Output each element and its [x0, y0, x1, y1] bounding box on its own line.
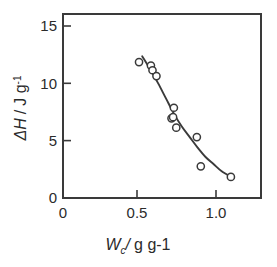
- data-point: [193, 133, 200, 140]
- x-tick-label-1-0: 1.0: [206, 204, 227, 221]
- y-tick-label-5: 5: [49, 132, 57, 149]
- data-point: [227, 173, 234, 180]
- x-axis-title: Wc/g g-1: [105, 236, 170, 256]
- data-point: [169, 114, 176, 121]
- x-axis-units: g g-1: [134, 236, 171, 253]
- x-axis-ticks: [63, 190, 216, 198]
- y-axis-separator: /: [12, 109, 29, 114]
- data-points-group: [135, 58, 234, 180]
- y-axis-symbol: ΔH: [12, 118, 29, 142]
- x-tick-label-0: 0: [59, 204, 67, 221]
- svg-text:ΔH/J g-1: ΔH/J g-1: [12, 75, 29, 141]
- x-tick-label-0-5: 0.5: [127, 204, 148, 221]
- plot-frame: [63, 14, 261, 198]
- data-point: [153, 73, 160, 80]
- y-axis-unit-exponent: -1: [12, 75, 23, 84]
- data-point: [197, 163, 204, 170]
- svg-text:Wc/g g-1: Wc/g g-1: [105, 236, 170, 256]
- y-tick-label-15: 15: [40, 17, 57, 34]
- data-point: [170, 104, 177, 111]
- y-axis-ticks: [63, 26, 71, 198]
- scatter-plot: 15 10 5 0 0 0.5 1.0 Wc/g g-1 ΔH/J g-1: [0, 0, 277, 267]
- y-tick-label-10: 10: [40, 75, 57, 92]
- y-axis-title: ΔH/J g-1: [12, 75, 29, 141]
- data-point: [135, 58, 142, 65]
- x-axis-separator: /: [125, 236, 132, 253]
- chart-figure: 15 10 5 0 0 0.5 1.0 Wc/g g-1 ΔH/J g-1: [0, 0, 277, 267]
- data-point: [173, 124, 180, 131]
- y-axis-units: J g: [12, 84, 29, 105]
- y-tick-label-0: 0: [49, 189, 57, 206]
